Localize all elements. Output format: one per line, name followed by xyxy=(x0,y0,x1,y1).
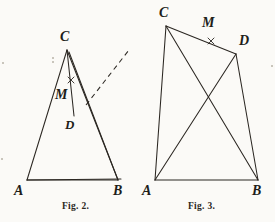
fig-3-vertex-label-C: C xyxy=(159,6,169,20)
figure-page: C M D A B Fig. 2. C M D A B Fig. 3. xyxy=(0,0,275,222)
fig-3-vertex-label-D: D xyxy=(239,34,249,48)
paper-speck xyxy=(52,57,54,59)
fig-3-vertex-label-M: M xyxy=(202,16,215,30)
fig-3-segment-AD xyxy=(155,54,236,180)
fig-3-segment-AC xyxy=(155,26,166,180)
fig-3-vertex-label-A: A xyxy=(142,184,152,198)
paper-speck xyxy=(1,158,3,160)
paper-speck xyxy=(271,65,273,67)
fig-3-segments xyxy=(155,26,258,180)
paper-speck xyxy=(52,61,54,63)
fig-3-segment-CD xyxy=(166,26,236,54)
fig-3-cross-mark-on-CD xyxy=(208,38,214,44)
fig-3-caption: Fig. 3. xyxy=(188,202,215,212)
paper-speck xyxy=(2,62,4,64)
fig-3-drawing xyxy=(0,0,275,222)
fig-3-vertex-label-B: B xyxy=(252,184,262,198)
